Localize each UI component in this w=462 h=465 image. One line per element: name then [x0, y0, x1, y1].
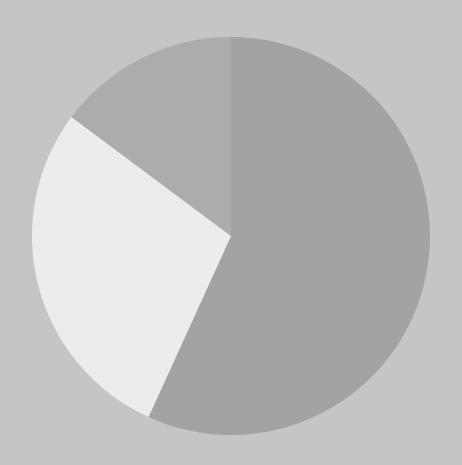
pie-chart: [0, 0, 462, 465]
pie-slices: [32, 37, 430, 435]
pie-chart-svg: [0, 0, 462, 465]
